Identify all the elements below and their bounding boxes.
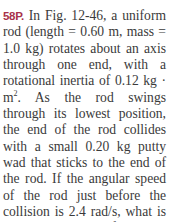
problem-text: 58P. In Fig. 12-46, a uniform rod (lengt… [3, 8, 166, 222]
problem-body-part-2: . As the rod swings through its lowest p… [3, 90, 166, 222]
problem-number-label: 58P. [3, 10, 24, 22]
